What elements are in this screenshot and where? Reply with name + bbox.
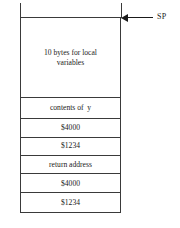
stack-cell-1234-upper-label: $1234 — [61, 141, 80, 150]
stack-cell-return-address-label: return address — [49, 160, 92, 169]
stack-left-rail — [20, 3, 21, 18]
stack-cell-4000-lower: $4000 — [21, 174, 120, 193]
stack-pointer-label: SP — [157, 12, 166, 22]
stack-cell-return-address: return address — [21, 156, 120, 175]
stack-cell-1234-lower-label: $1234 — [61, 198, 80, 207]
stack-cell-contents-of-y-label: contents of y — [50, 103, 91, 112]
stack-cell-4000-lower-label: $4000 — [61, 179, 80, 188]
arrow-head — [121, 14, 128, 22]
stack-box: 10 bytes for local variables contents of… — [20, 17, 121, 213]
stack-frame-diagram: 10 bytes for local variables contents of… — [0, 0, 180, 228]
stack-cell-contents-of-y: contents of y — [21, 98, 120, 119]
stack-cell-local-variables-label: 10 bytes for local variables — [44, 48, 97, 67]
stack-cell-1234-lower: $1234 — [21, 193, 120, 212]
stack-cell-4000-upper: $4000 — [21, 119, 120, 138]
stack-cell-1234-upper: $1234 — [21, 138, 120, 156]
stack-cell-4000-upper-label: $4000 — [61, 123, 80, 132]
arrow-shaft — [127, 17, 153, 18]
stack-cell-local-variables: 10 bytes for local variables — [21, 18, 120, 98]
left-arrow-icon — [121, 13, 153, 22]
